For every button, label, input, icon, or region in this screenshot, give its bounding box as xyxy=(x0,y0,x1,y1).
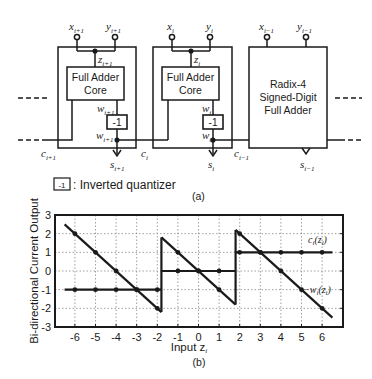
chart-tick-labels: -6-5-4-3-2-101234563210-1-2-3 xyxy=(41,209,325,343)
data-point-marker xyxy=(320,306,325,311)
quantizer-label: -1 xyxy=(113,117,122,128)
data-point-marker xyxy=(176,269,181,274)
series-segment xyxy=(65,224,162,312)
y-tick-label: -2 xyxy=(41,302,51,314)
data-point-marker xyxy=(93,287,98,292)
label-w: wi+1 xyxy=(97,102,115,117)
data-point-marker xyxy=(73,231,78,236)
y-axis-label: Bi-directional Current Output xyxy=(28,197,40,344)
input-terminal-y xyxy=(303,34,308,39)
input-terminal-x xyxy=(74,34,79,39)
x-axis-label: Input zi xyxy=(171,341,208,355)
x-tick-label: 2 xyxy=(237,331,243,343)
y-tick-label: 1 xyxy=(45,246,51,258)
label-z: zi xyxy=(193,53,200,68)
radix4-title-line1: Radix-4 xyxy=(270,78,306,90)
core-label-line1: Full Adder xyxy=(72,71,120,83)
figure-canvas: xi+1 yi+1 zi+1 Full Adder Core wi+1 -1 w… xyxy=(0,0,372,379)
data-point-marker xyxy=(176,250,181,255)
x-tick-label: 4 xyxy=(278,331,284,343)
x-tick-label: -6 xyxy=(70,331,80,343)
data-point-marker xyxy=(320,250,325,255)
label-carry: ci−1 xyxy=(234,147,249,162)
core-label-line2: Core xyxy=(179,84,202,96)
input-terminal-y xyxy=(112,34,117,39)
label-carry: ci+1 xyxy=(41,147,56,162)
data-point-marker xyxy=(237,250,242,255)
label-input-x: xi−1 xyxy=(258,20,274,35)
label-input-x: xi xyxy=(166,20,174,35)
series-label-carry: ci(zi) xyxy=(308,234,328,247)
label-input-y: yi+1 xyxy=(105,20,121,35)
data-point-marker xyxy=(155,306,160,311)
label-z: zi+1 xyxy=(97,53,112,68)
x-tick-label: 5 xyxy=(298,331,304,343)
data-point-marker xyxy=(279,250,284,255)
core-label-line2: Core xyxy=(84,84,107,96)
data-point-marker xyxy=(299,250,304,255)
x-tick-label: -5 xyxy=(91,331,101,343)
y-tick-label: -1 xyxy=(41,284,51,296)
quantizer-label: -1 xyxy=(209,117,218,128)
x-tick-label: -4 xyxy=(111,331,121,343)
label-w2: wi+1 xyxy=(96,129,114,144)
panel-label-a: (a) xyxy=(192,190,205,202)
data-point-marker xyxy=(114,269,119,274)
carry-out-wire xyxy=(42,100,72,140)
data-point-marker xyxy=(217,287,222,292)
x-tick-label: -2 xyxy=(152,331,162,343)
label-sum: si+1 xyxy=(110,158,124,173)
core-label-line1: Full Adder xyxy=(167,71,215,83)
data-point-marker xyxy=(155,287,160,292)
data-point-marker xyxy=(114,287,119,292)
label-sum: si−1 xyxy=(300,158,314,173)
y-tick-label: 0 xyxy=(45,265,51,277)
data-point-marker xyxy=(93,250,98,255)
label-input-y: yi−1 xyxy=(296,20,312,35)
x-tick-label: 3 xyxy=(257,331,263,343)
label-input-x: xi+1 xyxy=(68,20,84,35)
data-point-marker xyxy=(134,287,139,292)
sum-output-arrow-head xyxy=(302,148,310,154)
label-w2: wi xyxy=(202,129,211,144)
x-tick-label: 1 xyxy=(216,331,222,343)
data-point-marker xyxy=(237,231,242,236)
data-point-marker xyxy=(279,269,284,274)
legend-symbol-label: -1 xyxy=(58,181,66,190)
label-sum: si xyxy=(208,158,214,173)
x-tick-label: -3 xyxy=(132,331,142,343)
current-output-chart: -6-5-4-3-2-101234563210-1-2-3 Bi-directi… xyxy=(28,197,343,368)
radix4-title-line2: Signed-Digit xyxy=(259,91,316,103)
input-terminal-x xyxy=(169,34,174,39)
panel-label-b: (b) xyxy=(193,356,206,368)
y-tick-label: 3 xyxy=(45,209,51,221)
block-outline xyxy=(153,47,232,148)
legend-text: : Inverted quantizer xyxy=(73,178,176,192)
y-tick-label: 2 xyxy=(45,228,51,240)
label-input-y: yi xyxy=(205,20,213,35)
label-carry: ci xyxy=(141,147,148,162)
x-tick-label: 6 xyxy=(319,331,325,343)
y-tick-label: -3 xyxy=(41,321,51,333)
data-point-marker xyxy=(258,250,263,255)
data-point-marker xyxy=(196,269,201,274)
radix4-title-line3: Full Adder xyxy=(264,104,312,116)
data-point-marker xyxy=(217,269,222,274)
input-terminal-y xyxy=(207,34,212,39)
data-point-marker xyxy=(73,287,78,292)
input-terminal-x xyxy=(264,34,269,39)
